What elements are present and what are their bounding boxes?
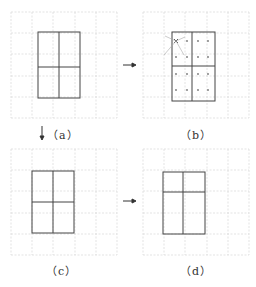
panel-a-grid: [11, 12, 117, 118]
arrow-right-icon: [123, 199, 136, 203]
panel-d-rectangle: [163, 172, 205, 234]
arrow-down-icon: [40, 126, 44, 140]
panel-d-grid: [143, 149, 249, 255]
panel-a-label: （a）: [47, 126, 79, 142]
panel-a-rectangle: [38, 32, 80, 98]
panel-d-label: （d）: [180, 262, 212, 278]
arrow-right-icon: [123, 63, 136, 67]
panel-b-grid: [143, 12, 249, 118]
panel-c-label: （c）: [46, 262, 77, 278]
panel-c-rectangle: [32, 171, 74, 233]
panel-b-label: （b）: [180, 126, 212, 142]
figure-canvas: [0, 0, 256, 287]
